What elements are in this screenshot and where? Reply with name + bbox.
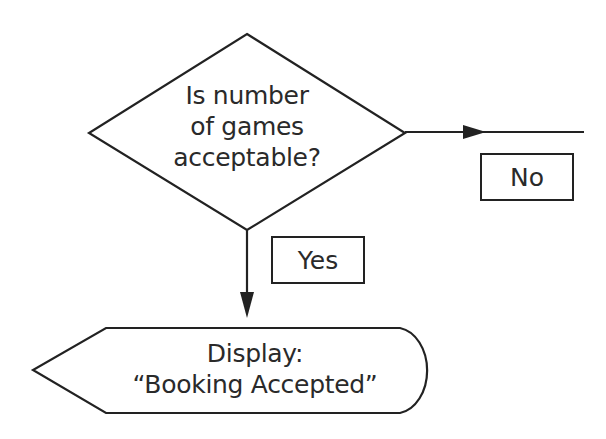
yes-label-box: Yes [271, 236, 365, 284]
decision-line-2: of games [140, 111, 354, 142]
no-label-box: No [480, 153, 574, 201]
display-line-2: “Booking Accepted” [90, 369, 420, 400]
no-label: No [510, 163, 544, 192]
yes-branch-arrowhead-icon [240, 292, 254, 318]
decision-line-1: Is number [140, 80, 354, 111]
decision-text: Is number of games acceptable? [140, 80, 354, 173]
yes-label: Yes [298, 246, 338, 275]
decision-line-3: acceptable? [140, 142, 354, 173]
display-text: Display: “Booking Accepted” [90, 338, 420, 400]
no-branch-arrowhead-icon [463, 125, 486, 139]
display-line-1: Display: [90, 338, 420, 369]
